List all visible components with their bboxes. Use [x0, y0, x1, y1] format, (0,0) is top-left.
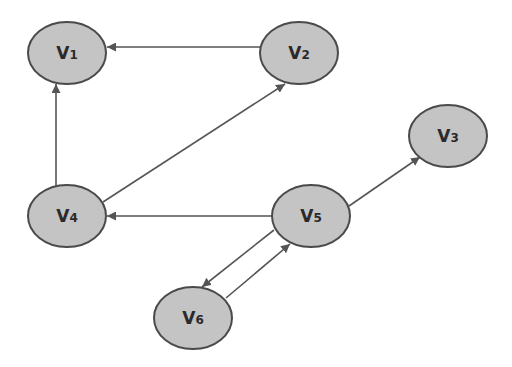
node-v1: V1: [28, 22, 106, 84]
edge-v5-to-v6: [202, 230, 274, 287]
edge-v4-to-v2: [103, 84, 285, 202]
node-v4: V4: [28, 185, 106, 247]
node-v6: V6: [154, 287, 232, 349]
node-v2: V2: [260, 22, 338, 84]
node-v5: V5: [272, 185, 350, 247]
graph-canvas: V1 V2 V3 V4 V5 V6: [0, 0, 512, 367]
edge-v5-to-v3: [349, 157, 420, 206]
edges: [56, 47, 420, 298]
node-v3: V3: [409, 105, 487, 167]
edge-v6-to-v5: [226, 244, 290, 298]
